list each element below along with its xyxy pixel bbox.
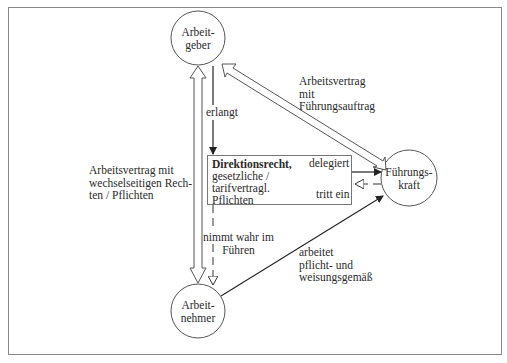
- node-fuehrungskraft: Führungs- kraft: [380, 166, 438, 191]
- node-arbeitgeber: Arbeit- geber: [171, 26, 225, 51]
- label-arbeitet-line1: arbeitet: [299, 246, 372, 259]
- box-title: Direktionsrecht,: [212, 158, 292, 170]
- label-arbeitsvertrag-left-line2: wechselseitigen Rech-: [89, 177, 192, 190]
- label-arbeitsvertrag-left-line3: ten / Pflichten: [89, 189, 192, 202]
- box-line2: gesetzliche /: [212, 170, 347, 182]
- label-nimmt-wahr-line1: nimmt wahr im: [203, 231, 274, 244]
- label-arbeitsvertrag-left: Arbeitsvertrag mit wechselseitigen Rech-…: [89, 164, 192, 202]
- label-arbeitet-line2: pflicht- und: [299, 259, 372, 272]
- label-arbeitsvertrag-left-line1: Arbeitsvertrag mit: [89, 164, 192, 177]
- node-fuehrungskraft-line1: Führungs-: [380, 166, 438, 179]
- label-arbeitsvertrag-fuehrungsauftrag: Arbeitsvertrag mit Führungsauftrag: [299, 75, 375, 113]
- label-nimmt-wahr-line2: Führen: [203, 244, 274, 257]
- label-tritt-ein: tritt ein: [316, 188, 350, 201]
- node-arbeitgeber-line2: geber: [171, 39, 225, 52]
- label-arbeitet-line3: weisungsgemäß: [299, 271, 372, 284]
- label-arbeitsvertrag-fk-line1: Arbeitsvertrag: [299, 75, 375, 88]
- label-erlangt: erlangt: [206, 105, 238, 120]
- node-arbeitnehmer-line1: Arbeit-: [171, 299, 225, 312]
- label-arbeitsvertrag-fk-line2: mit: [299, 88, 375, 101]
- label-delegiert: delegiert: [309, 157, 349, 170]
- label-nimmt-wahr: nimmt wahr im Führen: [203, 231, 274, 256]
- label-arbeitsvertrag-fk-line3: Führungsauftrag: [299, 100, 375, 113]
- node-arbeitnehmer: Arbeit- nehmer: [171, 299, 225, 324]
- label-arbeitet: arbeitet pflicht- und weisungsgemäß: [299, 246, 372, 284]
- node-arbeitgeber-line1: Arbeit-: [171, 26, 225, 39]
- node-arbeitnehmer-line2: nehmer: [171, 312, 225, 325]
- node-fuehrungskraft-line2: kraft: [380, 179, 438, 192]
